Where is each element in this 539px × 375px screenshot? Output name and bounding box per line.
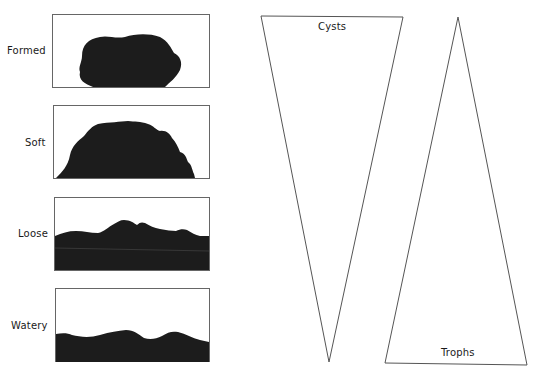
watery-stool-shape	[56, 330, 209, 362]
trophs-wedge	[385, 17, 527, 365]
diagram-canvas	[0, 0, 539, 375]
label-watery: Watery	[11, 320, 48, 331]
formed-stool-shape	[79, 34, 181, 87]
label-formed: Formed	[7, 45, 46, 56]
cysts-wedge	[261, 16, 403, 362]
loose-stool-shape	[55, 220, 209, 270]
label-loose: Loose	[18, 228, 48, 239]
panel-formed	[53, 15, 210, 88]
label-trophs: Trophs	[441, 347, 475, 358]
panel-loose	[55, 198, 210, 271]
label-soft: Soft	[25, 137, 46, 148]
panel-watery	[56, 289, 210, 363]
panel-soft	[54, 106, 210, 179]
soft-stool-shape	[56, 121, 195, 178]
label-cysts: Cysts	[318, 21, 346, 32]
